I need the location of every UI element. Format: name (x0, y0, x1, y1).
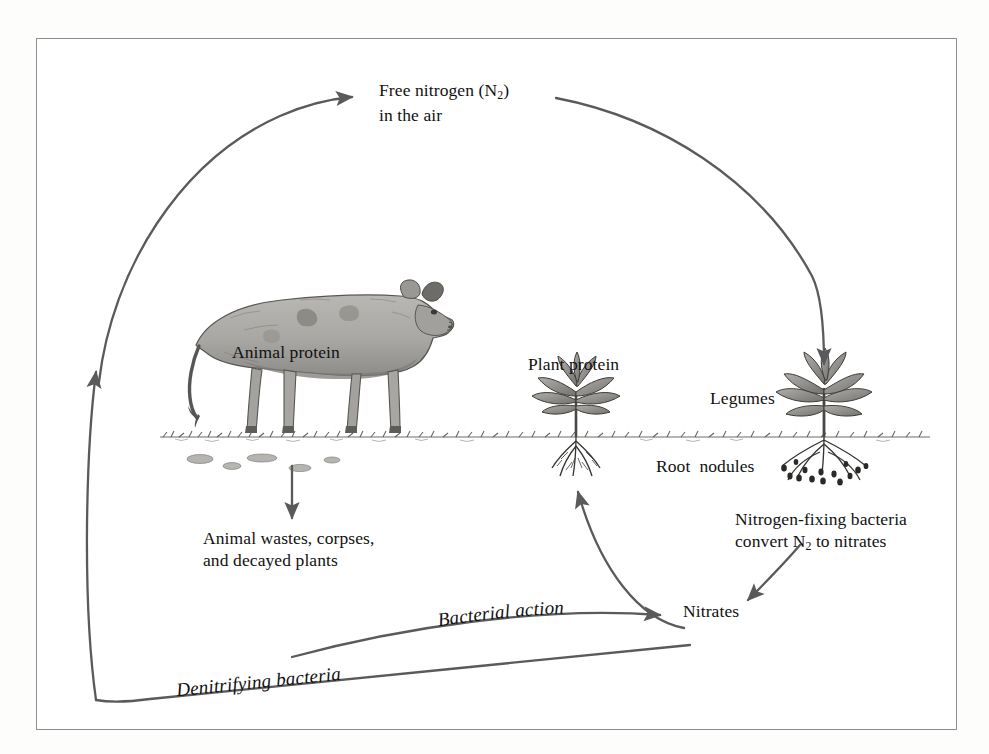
label-free-nitrogen-line1: Free nitrogen (N (379, 80, 497, 100)
figure-frame (36, 38, 957, 730)
label-root-nodules: Root nodules (656, 455, 755, 477)
nfix-line1: Nitrogen-fixing bacteria (735, 509, 907, 529)
label-nitrates: Nitrates (683, 600, 739, 622)
nfix-line2-post: to nitrates (811, 531, 886, 551)
label-plant-protein: Plant protein (528, 353, 619, 375)
label-legumes: Legumes (710, 387, 775, 409)
animal-wastes-line2: and decayed plants (203, 550, 338, 570)
label-animal-protein: Animal protein (232, 341, 340, 363)
figure-page: Bacterial action Denitrifying bacteria F… (0, 0, 989, 754)
animal-wastes-line1: Animal wastes, corpses, (203, 528, 374, 548)
free-nitrogen-paren: ) (503, 80, 509, 100)
nfix-line2-pre: convert N (735, 531, 805, 551)
label-nitrogen-fixing-bacteria: Nitrogen-fixing bacteriaconvert N2 to ni… (735, 508, 907, 555)
label-free-nitrogen: Free nitrogen (N2)in the air (379, 79, 509, 126)
label-animal-wastes: Animal wastes, corpses,and decayed plant… (203, 527, 374, 572)
label-free-nitrogen-line2: in the air (379, 105, 442, 125)
